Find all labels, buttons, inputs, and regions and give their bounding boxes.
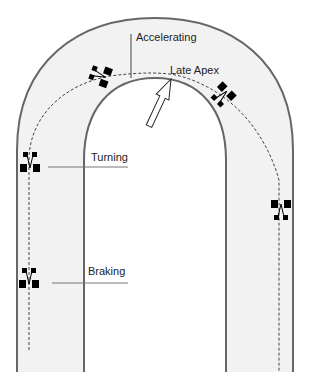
track-inner-edge [84, 78, 226, 372]
racing-line-diagram: Accelerating Late Apex Turning Braking [0, 0, 309, 385]
track-svg [0, 0, 309, 385]
label-turning: Turning [91, 152, 128, 163]
label-accelerating: Accelerating [136, 32, 197, 43]
late-apex-arrow-icon [143, 76, 178, 129]
track-surface [17, 18, 293, 372]
label-braking: Braking [88, 266, 125, 277]
label-late-apex: Late Apex [170, 65, 219, 76]
